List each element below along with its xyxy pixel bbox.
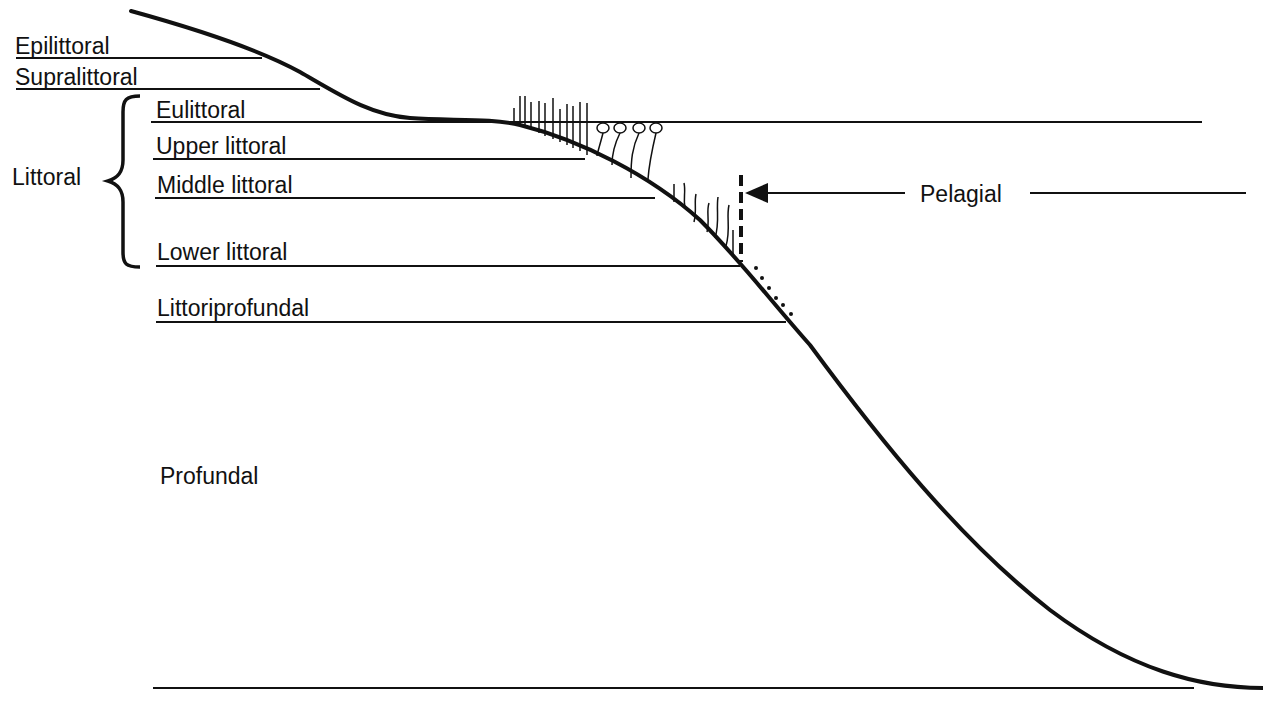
emergent-reeds-icon	[514, 96, 587, 155]
lower-littoral-label: Lower littoral	[157, 241, 287, 264]
littoriprofundal-label: Littoriprofundal	[157, 297, 309, 320]
dotted-extension-line	[754, 266, 793, 316]
pelagial-label: Pelagial	[920, 183, 1002, 206]
middle-littoral-label: Middle littoral	[157, 174, 293, 197]
profundal-label: Profundal	[160, 465, 258, 488]
upper-littoral-label: Upper littoral	[156, 135, 286, 158]
lake-bottom-profile-curve	[131, 11, 1263, 688]
supralittoral-label: Supralittoral	[15, 66, 138, 89]
epilittoral-label: Epilittoral	[15, 35, 110, 58]
littoral-brace-icon	[108, 96, 140, 267]
littoral-label: Littoral	[12, 166, 81, 189]
eulittoral-label: Eulittoral	[156, 99, 245, 122]
